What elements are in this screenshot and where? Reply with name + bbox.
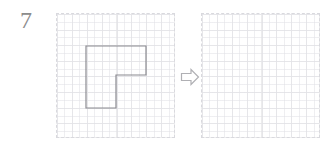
worksheet-canvas: 7 [0,0,332,155]
exercise-number-label: 7 [20,8,32,32]
answer-grid-panel[interactable] [201,13,320,138]
source-grid-panel[interactable] [56,13,175,138]
arrow-right-icon [180,66,200,88]
